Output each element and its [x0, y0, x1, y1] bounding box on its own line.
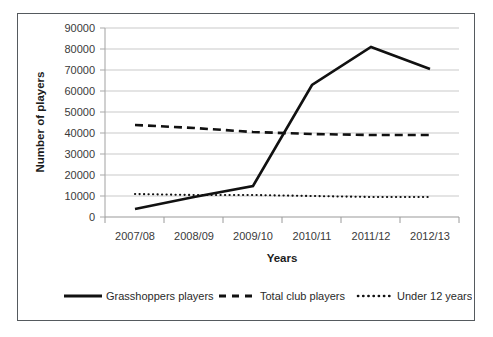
line-chart-canvas: 90000 80000 70000 60000 50000 40000 3000…	[18, 14, 472, 318]
y-tick-label: 70000	[64, 64, 95, 76]
y-tick-label: 20000	[64, 169, 95, 181]
legend-label-grasshoppers-players: Grasshoppers players	[106, 290, 214, 302]
y-tick-label: 60000	[64, 85, 95, 97]
x-tick-label: 2010/11	[293, 230, 332, 242]
gridlines	[105, 28, 459, 196]
legend-label-total-club-players: Total club players	[260, 290, 345, 302]
y-tick-marks	[100, 28, 105, 217]
y-axis-title: Number of players	[34, 72, 46, 173]
y-tick-label: 10000	[64, 190, 95, 202]
x-tick-label: 2007/08	[115, 230, 155, 242]
x-tick-label: 2011/12	[352, 230, 391, 242]
y-tick-label: 90000	[64, 22, 95, 34]
x-axis-title: Years	[267, 252, 298, 264]
x-tick-marks	[105, 217, 459, 223]
y-tick-label: 80000	[64, 43, 95, 55]
y-tick-label: 30000	[64, 148, 95, 160]
legend-label-under-12-years-players: Under 12 years players	[397, 290, 472, 302]
chart-frame: 90000 80000 70000 60000 50000 40000 3000…	[17, 13, 475, 321]
y-tick-label: 0	[89, 211, 95, 223]
x-tick-label: 2009/10	[233, 230, 273, 242]
chart-legend: Grasshoppers players Total club players …	[64, 290, 472, 302]
y-tick-label: 50000	[64, 106, 95, 118]
y-tick-label: 40000	[64, 127, 95, 139]
x-tick-label: 2012/13	[410, 230, 450, 242]
chart-figure: 90000 80000 70000 60000 50000 40000 3000…	[0, 0, 493, 337]
x-tick-labels: 2007/08 2008/09 2009/10 2010/11 2011/12 …	[115, 230, 450, 242]
x-tick-label: 2008/09	[174, 230, 214, 242]
y-tick-labels: 90000 80000 70000 60000 50000 40000 3000…	[64, 22, 95, 223]
